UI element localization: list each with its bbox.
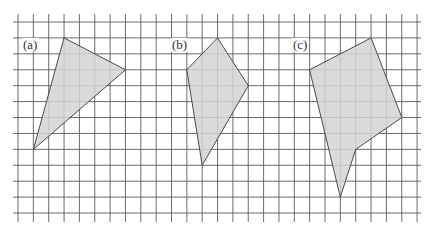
- shape-label-c: (c): [293, 37, 307, 52]
- shape-label-b: (b): [172, 37, 187, 52]
- shape-label-a: (a): [23, 37, 37, 52]
- grid-figure: (a)(b)(c): [0, 0, 429, 231]
